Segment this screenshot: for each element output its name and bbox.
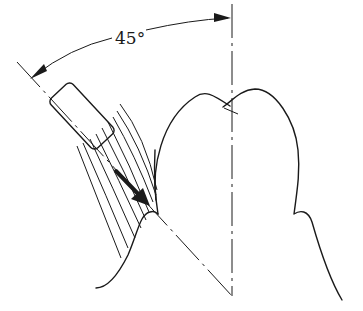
tooth-crown [155,89,342,300]
angle-label: 45° [115,28,145,48]
gum-line [96,212,158,288]
arrowhead-left-icon [30,64,47,79]
bristles [77,104,157,258]
fissure-mark [224,108,238,114]
direction-arrow [116,171,150,206]
toothbrush-head [48,81,116,151]
arrowhead-right-icon [214,13,231,22]
brushing-angle-diagram: 45° [0,0,363,311]
